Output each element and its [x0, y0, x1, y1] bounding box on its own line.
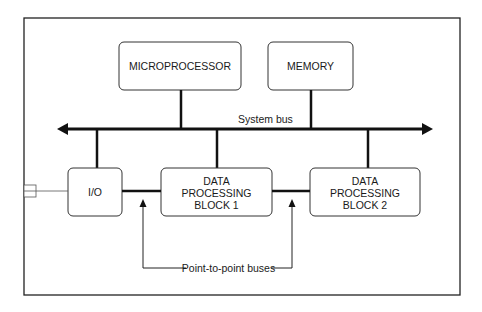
dpb2-label-line2: PROCESSING	[330, 187, 400, 199]
data-processing-block-1: DATA PROCESSING BLOCK 1	[161, 168, 272, 216]
dpb1-label-line1: DATA	[203, 175, 229, 187]
microprocessor-label: MICROPROCESSOR	[129, 60, 232, 72]
architecture-diagram: MICROPROCESSOR MEMORY System bus I/O DAT…	[0, 0, 482, 312]
annotation-arrow-left-icon	[140, 199, 147, 207]
microprocessor-block: MICROPROCESSOR	[119, 42, 241, 90]
diagram-frame	[24, 18, 460, 295]
dpb1-label-line2: PROCESSING	[181, 187, 251, 199]
external-connector	[24, 185, 68, 197]
data-processing-block-2: DATA PROCESSING BLOCK 2	[310, 168, 420, 216]
system-bus-label: System bus	[238, 113, 293, 125]
bus-arrow-right-icon	[422, 123, 433, 135]
memory-block: MEMORY	[268, 42, 353, 90]
dpb2-label-line1: DATA	[352, 175, 378, 187]
io-block: I/O	[68, 168, 122, 216]
annotation-arrow-right-icon	[289, 199, 296, 207]
bus-arrow-left-icon	[57, 123, 68, 135]
io-label: I/O	[88, 186, 102, 198]
point-to-point-label: Point-to-point buses	[182, 262, 275, 274]
memory-label: MEMORY	[287, 60, 334, 72]
dpb1-label-line3: BLOCK 1	[194, 199, 239, 211]
dpb2-label-line3: BLOCK 2	[343, 199, 388, 211]
